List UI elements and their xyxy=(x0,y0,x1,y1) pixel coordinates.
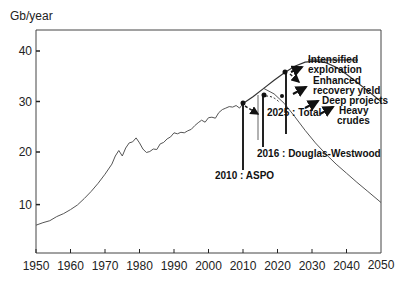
x-tick-label: 2000 xyxy=(195,259,222,273)
x-tick-label: 1970 xyxy=(92,259,119,273)
x-tick-label: 2030 xyxy=(299,259,326,273)
x-tick-label: 2050 xyxy=(368,258,395,272)
y-axis: 40 30 20 10 xyxy=(19,44,40,212)
x-tick-label: 2010 xyxy=(230,259,257,273)
x-tick-label: 1960 xyxy=(57,259,84,273)
x-tick-label: 1990 xyxy=(161,259,188,273)
y-tick-label: 20 xyxy=(19,145,33,159)
annotations: 2010 : ASPO 2016 : Douglas-Westwood 2025… xyxy=(215,54,389,181)
x-tick-label: 2020 xyxy=(264,259,291,273)
series-line xyxy=(36,104,243,226)
y-tick-label: 30 xyxy=(19,95,33,109)
y-axis-unit-label: Gb/year xyxy=(10,9,53,23)
x-tick-label: 1950 xyxy=(23,259,50,273)
y-tick-label: 40 xyxy=(19,44,33,58)
annotation-douglas-westwood: 2016 : Douglas-Westwood xyxy=(257,148,381,159)
x-tick-label: 1980 xyxy=(126,259,153,273)
x-tick-label: 2040 xyxy=(333,259,360,273)
annotation-heavy-crudes-2: crudes xyxy=(337,115,370,126)
y-tick-label: 10 xyxy=(19,198,33,212)
annotation-total: 2025 : Total xyxy=(267,107,321,118)
annotation-intensified-exploration-2: exploration xyxy=(308,64,362,75)
oil-production-chart: Gb/year 40 30 20 10 1950 1960 1970 1980 … xyxy=(0,0,406,284)
annotation-aspo: 2010 : ASPO xyxy=(215,170,274,181)
